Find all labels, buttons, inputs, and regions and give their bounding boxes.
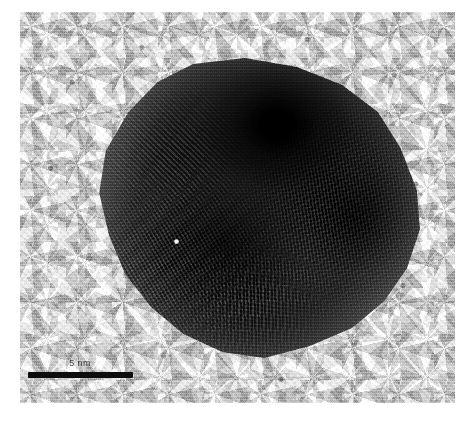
hrtem-micrograph-image: 5 nm <box>20 12 455 403</box>
scale-bar: 5 nm <box>28 358 148 378</box>
figure-root: 5 nm <box>0 0 471 424</box>
bright-defect-spot <box>174 239 179 244</box>
scale-bar-line <box>28 372 133 378</box>
scale-bar-label: 5 nm <box>42 358 118 369</box>
